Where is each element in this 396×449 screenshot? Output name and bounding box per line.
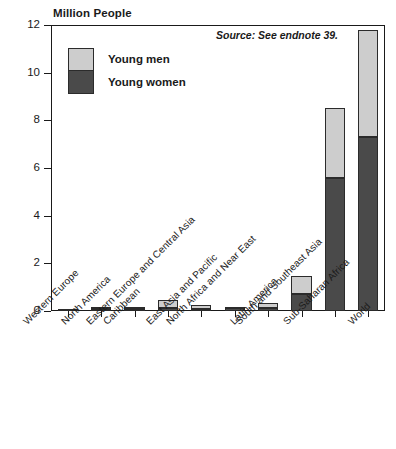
bar-segment-young-women	[124, 309, 144, 311]
x-tick	[335, 311, 336, 317]
bar-world	[358, 30, 378, 311]
x-tick	[201, 311, 202, 317]
y-tick-label: 4	[10, 210, 40, 222]
y-tick-label: 6	[10, 162, 40, 174]
legend-swatch-young-women	[69, 71, 93, 93]
legend-swatch-young-men	[69, 49, 93, 71]
y-tick	[44, 120, 51, 121]
bar-segment-young-women	[258, 308, 278, 311]
y-tick	[44, 263, 51, 264]
x-tick	[135, 311, 136, 317]
bar-segment-young-women	[325, 178, 345, 311]
y-tick	[44, 216, 51, 217]
x-tick	[268, 311, 269, 317]
y-axis-title: Million People	[53, 7, 132, 19]
chart-container: Million People 024681012 Western EuropeN…	[0, 0, 396, 449]
bar-segment-young-women	[358, 137, 378, 311]
legend-label-young-women: Young women	[108, 76, 186, 88]
y-tick-label: 8	[10, 115, 40, 127]
y-tick	[44, 73, 51, 74]
y-tick	[44, 168, 51, 169]
y-tick-label: 10	[10, 67, 40, 79]
bar-segment-young-men	[325, 108, 345, 177]
y-tick-label: 2	[10, 258, 40, 270]
source-note: Source: See endnote 39.	[216, 29, 338, 41]
legend-swatch-box	[68, 48, 94, 94]
bar-segment-young-men	[358, 30, 378, 137]
legend-label-young-men: Young men	[108, 53, 170, 65]
y-tick-label: 12	[10, 19, 40, 31]
y-tick	[44, 311, 51, 312]
bar-east-asia-and-pacific	[191, 305, 211, 311]
bar-segment-young-women	[191, 309, 211, 311]
y-tick	[44, 25, 51, 26]
